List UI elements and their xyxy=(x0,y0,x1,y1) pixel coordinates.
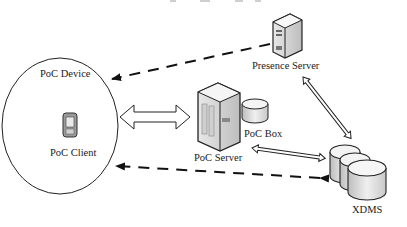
poc-device-label: PoC Device xyxy=(40,68,90,79)
edge-presence-to-device xyxy=(112,44,270,79)
edge-device-server xyxy=(120,105,190,129)
server-tower-icon xyxy=(273,14,302,58)
diagram-graphics xyxy=(0,0,407,227)
database-stack-icon xyxy=(330,145,386,200)
poc-server-label: PoC Server xyxy=(194,152,242,163)
xdms-label: XDMS xyxy=(352,204,382,215)
edge-presence-xdms xyxy=(300,75,354,141)
server-tower-icon xyxy=(198,83,240,151)
edge-box-xdms xyxy=(251,144,325,162)
mobile-phone-icon xyxy=(63,113,77,137)
cut-off-header-fragment xyxy=(170,0,261,2)
diagram-canvas: PoC Device PoC Client PoC Server PoC Box… xyxy=(0,0,407,227)
poc-box-label: PoC Box xyxy=(244,128,282,139)
poc-client-label: PoC Client xyxy=(50,147,96,158)
database-cylinder-icon xyxy=(242,99,268,123)
edge-xdms-to-device xyxy=(116,166,320,178)
presence-server-label: Presence Server xyxy=(252,60,319,71)
